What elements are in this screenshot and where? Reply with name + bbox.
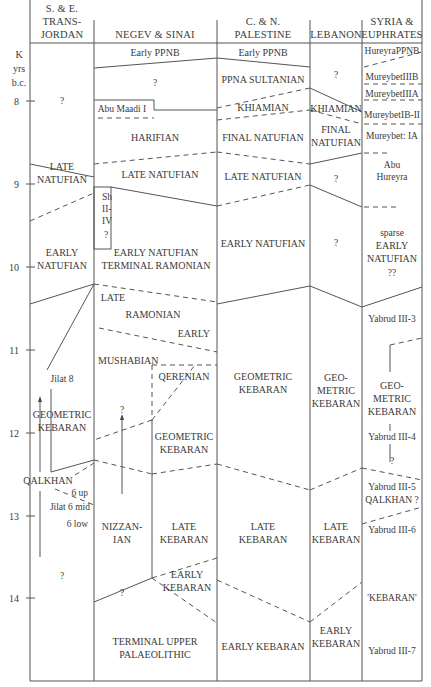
period-label-negev-sinai: EARLY xyxy=(178,328,210,339)
period-label-syria-euphrates: Yabrud III-7 xyxy=(368,646,416,656)
period-label-lebanon: EARLYKEBARAN xyxy=(312,625,360,649)
tick-label: 10 xyxy=(9,262,19,273)
period-label-negev-sinai: ? xyxy=(120,588,124,598)
period-label-syria-euphrates: ? xyxy=(390,456,394,466)
tick-label: 11 xyxy=(9,345,19,356)
period-label-transjordan: 6 low xyxy=(67,519,89,529)
period-label-transjordan: 6 up xyxy=(71,488,88,498)
period-label-palestine: PPNA SULTANIAN xyxy=(221,74,304,85)
period-label-syria-euphrates: HureyraPPNB xyxy=(365,46,420,56)
period-label-palestine: LATE NATUFIAN xyxy=(225,171,302,182)
period-label-negev-sinai: RAMONIAN xyxy=(126,309,181,320)
column-header-syria-euphrates: SYRIA &EUPHRATES xyxy=(361,16,422,40)
period-label-lebanon: ? xyxy=(334,70,338,80)
chronology-chart: 891011121314 xyxy=(0,0,431,687)
period-label-transjordan: LATENATUFIAN xyxy=(37,161,87,185)
period-label-transjordan: QALKHAN xyxy=(23,475,72,486)
period-label-syria-euphrates: MureybetIB-II xyxy=(364,110,420,120)
axis-unit-label: Kyrsb.c. xyxy=(12,49,26,88)
column-header-lebanon: LEBANON xyxy=(310,29,362,40)
tick-label: 14 xyxy=(9,593,19,604)
period-label-syria-euphrates: Yabrud III-5 xyxy=(368,482,416,492)
period-label-negev-sinai: LATEKEBARAN xyxy=(160,521,208,545)
period-label-syria-euphrates: ?? xyxy=(388,268,396,278)
period-label-palestine: EARLY KEBARAN xyxy=(222,641,305,652)
column-header-negev-sinai: NEGEV & SINAI xyxy=(115,29,195,40)
tick-label: 12 xyxy=(9,428,19,439)
period-label-palestine: EARLY NATUFIAN xyxy=(221,238,305,249)
period-label-syria-euphrates: QALKHAN ? xyxy=(365,495,419,505)
period-label-negev-sinai: MUSHABIAN xyxy=(98,355,159,366)
period-labels: ?LATENATUFIANEARLYNATUFIANJilat 8GEOMETR… xyxy=(23,46,420,660)
period-label-syria-euphrates: EARLYNATUFIAN xyxy=(367,240,417,264)
column-header-transjordan: S. & E.TRANS-JORDAN xyxy=(41,3,84,40)
column-headers: S. & E.TRANS-JORDANNEGEV & SINAIC. & N.P… xyxy=(41,3,423,40)
period-label-lebanon: ? xyxy=(334,174,338,184)
period-label-negev-sinai: ? xyxy=(120,405,124,415)
period-label-negev-sinai: GEOMETRICKEBARAN xyxy=(155,431,214,455)
period-label-transjordan: ? xyxy=(60,96,64,106)
period-label-negev-sinai: ? xyxy=(153,78,157,88)
period-label-syria-euphrates: MureybetIIIA xyxy=(365,89,418,99)
period-label-negev-sinai: LATE xyxy=(101,292,125,303)
axis-unit: Kyrsb.c. xyxy=(12,49,26,88)
tick-label: 8 xyxy=(14,96,19,107)
period-label-negev-sinai: HARIFIAN xyxy=(131,132,179,143)
axis-ticks: 891011121314 xyxy=(9,96,35,604)
period-label-syria-euphrates: Yabrud III-6 xyxy=(368,525,416,535)
period-label-negev-sinai: ShII-IV xyxy=(102,192,112,226)
period-label-transjordan: GEOMETRICKEBARAN xyxy=(33,409,92,433)
period-label-negev-sinai: Early PPNB xyxy=(130,47,180,58)
chart-frame xyxy=(30,0,422,681)
tick-label: 13 xyxy=(9,511,19,522)
period-label-syria-euphrates: sparse xyxy=(380,228,404,238)
period-label-negev-sinai: QERENIAN xyxy=(158,371,209,382)
period-label-syria-euphrates: Yabrud III-3 xyxy=(368,314,416,324)
period-label-palestine: FINAL NATUFIAN xyxy=(222,132,304,143)
period-label-lebanon: GEO-METRICKEBARAN xyxy=(312,372,360,409)
period-label-syria-euphrates: GEO-METRICKEBARAN xyxy=(368,380,416,417)
period-label-negev-sinai: NIZZAN-IAN xyxy=(102,521,143,545)
period-label-lebanon: FINALNATUFIAN xyxy=(311,124,361,148)
period-label-negev-sinai: EARLY NATUFIANTERMINAL RAMONIAN xyxy=(102,247,211,271)
period-label-syria-euphrates: 'KEBARAN' xyxy=(367,593,417,603)
period-label-transjordan: Jilat 8 xyxy=(51,374,74,384)
period-label-palestine: LATEKEBARAN xyxy=(239,521,287,545)
period-label-palestine: Early PPNB xyxy=(238,47,288,58)
period-label-lebanon: LATEKEBARAN xyxy=(312,521,360,545)
period-label-syria-euphrates: MureybetIIIB xyxy=(366,72,419,82)
period-label-syria-euphrates: AbuHureyra xyxy=(376,160,408,182)
period-label-lebanon: KHIAMIAN xyxy=(310,103,362,114)
period-label-syria-euphrates: Mureybet: IA xyxy=(366,131,418,141)
period-label-transjordan: Jilat 6 mid xyxy=(50,502,90,512)
period-label-transjordan: ? xyxy=(60,571,64,581)
period-label-palestine: KHIAMIAN xyxy=(237,102,289,113)
period-label-syria-euphrates: Yabrud III-4 xyxy=(368,432,416,442)
period-label-negev-sinai: LATE NATUFIAN xyxy=(122,169,199,180)
period-label-negev-sinai: EARLYKEBARAN xyxy=(163,569,211,593)
period-label-transjordan: EARLYNATUFIAN xyxy=(37,247,87,271)
tick-label: 9 xyxy=(14,179,19,190)
period-label-negev-sinai: TERMINAL UPPERPALAEOLITHIC xyxy=(113,636,198,660)
period-label-palestine: GEOMETRICKEBARAN xyxy=(234,371,293,395)
period-label-lebanon: ? xyxy=(334,238,338,248)
column-header-palestine: C. & N.PALESTINE xyxy=(235,16,292,40)
period-label-negev-sinai: Abu Maadi I xyxy=(98,104,147,114)
period-label-negev-sinai: ? xyxy=(104,230,108,240)
